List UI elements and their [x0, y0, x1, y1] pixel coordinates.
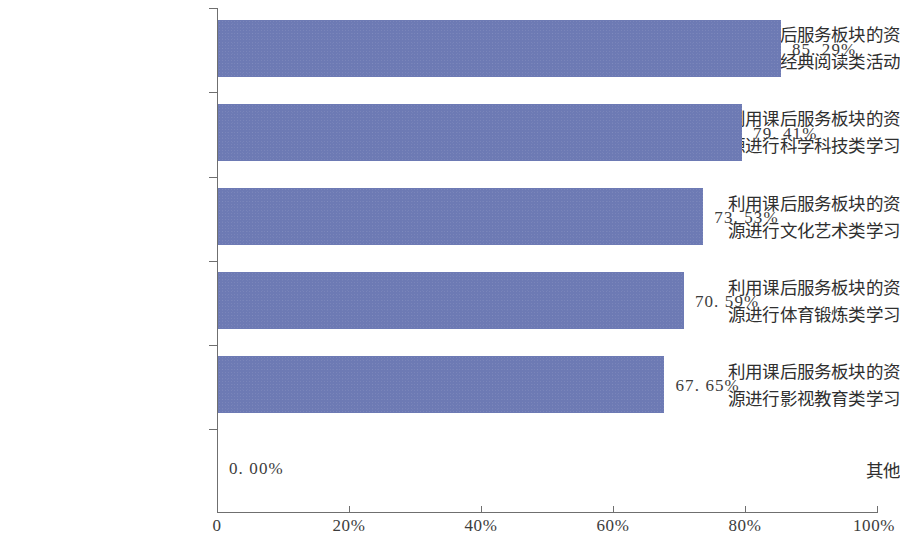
- x-axis-tick-label-2: 40%: [465, 516, 498, 536]
- x-axis-tick-label-5: 100%: [853, 516, 895, 536]
- x-axis-tick: [481, 506, 482, 513]
- y-axis-tick: [209, 261, 217, 262]
- y-axis-tick: [209, 429, 217, 430]
- bar-3: [218, 272, 684, 329]
- x-axis-tick-label-1: 20%: [333, 516, 366, 536]
- x-axis-tick: [217, 506, 218, 513]
- y-axis-tick: [209, 8, 217, 9]
- x-axis-line: [217, 512, 878, 513]
- bar-0: [218, 20, 781, 77]
- x-axis-tick-label-0: 0: [212, 516, 221, 536]
- bar-2: [218, 188, 703, 245]
- x-axis-tick: [613, 506, 614, 513]
- bar-value-0: 85. 29%: [792, 40, 856, 60]
- category-label-line: 其他: [693, 458, 900, 485]
- bar-value-2: 73. 53%: [714, 208, 778, 228]
- bar-1: [218, 104, 742, 161]
- bar-4: [218, 356, 664, 413]
- bar-value-3: 70. 59%: [695, 292, 759, 312]
- category-label-5: 其他: [693, 458, 900, 485]
- y-axis-tick: [209, 177, 217, 178]
- bar-value-5: 0. 00%: [229, 459, 284, 479]
- bar-value-4: 67. 65%: [675, 376, 739, 396]
- x-axis-tick: [349, 506, 350, 513]
- x-axis-tick: [745, 506, 746, 513]
- x-axis-tick-label-4: 80%: [729, 516, 762, 536]
- bar-chart: 利用课后服务板块的资 源进行经典阅读类活动 利用课后服务板块的资 源进行科学科技…: [0, 0, 900, 536]
- y-axis-tick: [209, 92, 217, 93]
- x-axis-tick: [877, 506, 878, 513]
- bar-value-1: 79. 41%: [753, 124, 817, 144]
- x-axis-tick-label-3: 60%: [597, 516, 630, 536]
- y-axis-tick: [209, 345, 217, 346]
- y-axis-line: [217, 8, 218, 513]
